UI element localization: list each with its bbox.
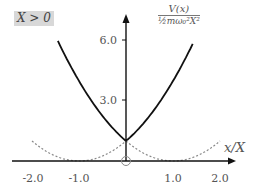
potential-chart: 3.0 6.0 -2.0 -1.0 1.0 2.0 xyxy=(0,0,265,196)
y-axis-label-numerator: V(x) xyxy=(158,4,200,16)
x-tick-label-neg2: -2.0 xyxy=(22,172,43,185)
y-axis-label: V(x) ½mω₀²X² xyxy=(158,4,200,26)
x-axis-label: x/X xyxy=(224,140,245,155)
x-tick-label-1: 1.0 xyxy=(164,172,182,185)
condition-badge: X > 0 xyxy=(14,11,54,26)
y-axis-arrow-icon xyxy=(123,14,130,23)
x-axis-arrow-icon xyxy=(228,158,236,165)
x-tick-label-neg1: -1.0 xyxy=(68,172,89,185)
y-tick-label-3: 3.0 xyxy=(100,94,118,107)
dashed-curve-right xyxy=(126,141,220,161)
y-axis-label-denominator: ½mω₀²X² xyxy=(158,16,200,26)
y-tick-label-6: 6.0 xyxy=(100,34,118,47)
x-tick-label-2: 2.0 xyxy=(211,172,229,185)
dashed-curve-left xyxy=(32,141,126,161)
